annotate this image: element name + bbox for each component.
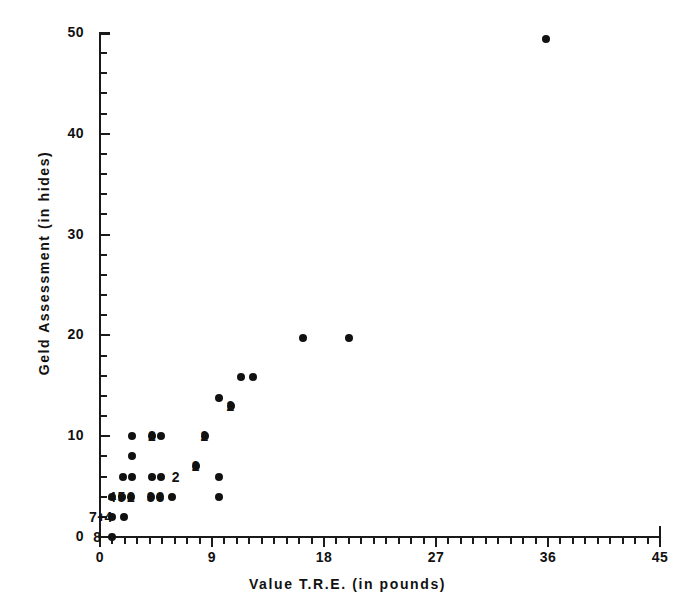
point-count-label: 2 [227,398,235,414]
x-axis-minor-tick-3 [136,536,138,544]
point-count-label: 2 [200,428,208,444]
data-point [215,394,223,402]
y-axis-tick-label-0: 0 [36,528,84,544]
data-point [128,452,136,460]
x-axis-minor-tick-4 [149,536,151,544]
x-axis-minor-tick-5 [161,536,163,544]
x-axis-minor-tick-40 [597,536,599,544]
x-axis-minor-tick-12 [248,536,250,544]
x-axis-minor-tick-6 [174,536,176,544]
x-axis-minor-tick-2 [124,536,126,544]
x-axis-minor-tick-22 [373,536,375,544]
x-axis-minor-tick-28 [447,536,449,544]
x-axis-major-tick-9 [211,536,213,547]
x-axis-minor-tick-14 [273,536,275,544]
x-axis-major-tick-45 [659,536,661,547]
point-count-label: 2 [148,428,156,444]
data-point [148,473,156,481]
x-axis-minor-tick-25 [410,536,412,544]
x-axis-minor-tick-7 [186,536,188,544]
x-axis-minor-tick-26 [423,536,425,544]
y-axis-tick-label-10: 10 [36,427,84,443]
data-point [237,373,245,381]
x-axis-minor-tick-17 [311,536,313,544]
point-count-label: 3 [147,489,155,505]
data-point [168,493,176,501]
x-axis-minor-tick-8 [199,536,201,544]
x-axis-minor-tick-41 [609,536,611,544]
data-point [128,432,136,440]
x-axis-minor-tick-23 [385,536,387,544]
x-axis-minor-tick-24 [398,536,400,544]
x-axis-major-tick-27 [435,536,437,547]
x-axis-minor-tick-44 [647,536,649,544]
point-count-label: 7+ [89,509,106,525]
data-point [542,35,550,43]
data-point [249,373,257,381]
x-axis-minor-tick-32 [497,536,499,544]
point-count-label: 2 [127,489,135,505]
data-point [108,533,116,541]
x-axis-minor-tick-35 [535,536,537,544]
x-axis-tick-label-0: 0 [78,549,122,565]
data-point [128,473,136,481]
x-axis-minor-tick-30 [472,536,474,544]
x-axis-minor-tick-15 [286,536,288,544]
point-count-label: 2 [192,458,200,474]
x-axis-minor-tick-29 [460,536,462,544]
y-axis-title: Geld Assessment (in hides) [36,98,52,428]
x-axis-tick-label-27: 27 [414,549,458,565]
scatter-plot-figure: 01020304050 0918273645 847+4523322222 Va… [0,0,695,609]
x-axis-minor-tick-20 [348,536,350,544]
x-axis-minor-tick-37 [559,536,561,544]
x-axis-tick-label-18: 18 [302,549,346,565]
x-axis-minor-tick-42 [622,536,624,544]
x-axis-tick-label-36: 36 [526,549,570,565]
x-axis-minor-tick-10 [223,536,225,544]
data-point [215,473,223,481]
x-axis-minor-tick-33 [510,536,512,544]
point-count-label: 8 [93,529,101,545]
data-point [120,513,128,521]
data-point [299,334,307,342]
data-point [215,493,223,501]
x-axis-title: Value T.R.E. (in pounds) [0,576,695,592]
plot-area: 847+4523322222 [100,33,660,537]
point-count-label: 2 [172,469,180,485]
data-point [119,473,127,481]
x-axis-minor-tick-43 [634,536,636,544]
x-axis-minor-tick-31 [485,536,487,544]
x-axis-minor-tick-39 [584,536,586,544]
x-axis-minor-tick-11 [236,536,238,544]
x-axis-minor-tick-21 [360,536,362,544]
data-point [157,432,165,440]
x-axis-tick-label-45: 45 [638,549,682,565]
x-axis-minor-tick-19 [335,536,337,544]
x-axis-minor-tick-16 [298,536,300,544]
data-point [345,334,353,342]
x-axis-minor-tick-34 [522,536,524,544]
data-point [157,473,165,481]
data-point [108,513,116,521]
x-axis-major-tick-36 [547,536,549,547]
x-axis-minor-tick-13 [261,536,263,544]
point-count-label: 3 [156,489,164,505]
point-count-label: 5 [118,489,126,505]
x-axis-major-tick-18 [323,536,325,547]
x-axis-tick-label-9: 9 [190,549,234,565]
point-count-label: 4 [108,489,116,505]
y-axis-tick-label-50: 50 [36,24,84,40]
x-axis-minor-tick-38 [572,536,574,544]
